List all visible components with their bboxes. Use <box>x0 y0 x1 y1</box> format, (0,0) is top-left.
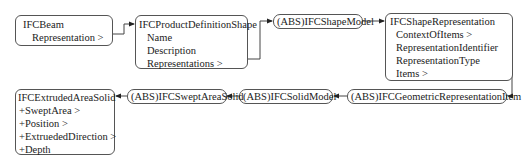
edge-beam-to-pds <box>113 24 134 34</box>
attribute-items: Items > <box>390 67 512 80</box>
node-ifcextrudedareasolid[interactable]: IFCExtrudedAreaSolid +SweptArea > +Posit… <box>15 89 115 155</box>
node-ifcproductdefinitionshape[interactable]: IFCProductDefinitionShape Name Descripti… <box>135 15 248 69</box>
node-title: (ABS)IFCShapeModel <box>277 16 374 27</box>
node-title: IFCExtrudedAreaSolid <box>18 91 114 104</box>
node-title: (ABS)IFCGeometricRepresentationItem <box>351 91 521 102</box>
node-title: IFCProductDefinitionShape <box>139 18 247 31</box>
node-title: (ABS)IFCSolidModel <box>243 91 336 102</box>
attribute-description: Description <box>139 44 247 57</box>
node-ifcbeam[interactable]: IFCBeam Representation > <box>15 15 113 46</box>
attribute-representationidentifier: RepresentationIdentifier <box>390 41 512 54</box>
node-abs-ifcgeometricrepresentationitem[interactable]: (ABS)IFCGeometricRepresentationItem <box>347 89 507 104</box>
attribute-name: Name <box>139 31 247 44</box>
attribute-extrudeddirection: +ExtruededDirection > <box>18 130 114 143</box>
attribute-sweptarea: +SweptArea > <box>18 104 114 117</box>
attribute-representations: Representations > <box>139 57 247 70</box>
node-abs-ifcsolidmodel[interactable]: (ABS)IFCSolidModel <box>239 89 333 104</box>
node-abs-ifcshapemodel[interactable]: (ABS)IFCShapeModel <box>273 14 363 29</box>
node-title: IFCShapeRepresentation <box>390 15 512 28</box>
node-title: IFCBeam <box>23 18 112 31</box>
node-title: (ABS)IFCSweptAreaSolid <box>131 91 244 102</box>
attribute-depth: +Depth <box>18 143 114 156</box>
attribute-representation: Representation > <box>23 31 112 44</box>
attribute-representationtype: RepresentationType <box>390 54 512 67</box>
attribute-contextofitems: ContextOfItems > <box>390 28 512 41</box>
attribute-position: +Position > <box>18 117 114 130</box>
node-ifcshaperepresentation[interactable]: IFCShapeRepresentation ContextOfItems > … <box>385 13 513 81</box>
node-abs-ifcsweptareasolid[interactable]: (ABS)IFCSweptAreaSolid <box>127 89 227 104</box>
